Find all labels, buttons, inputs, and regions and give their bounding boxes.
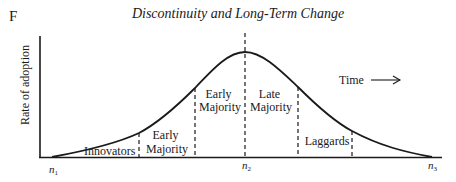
x-tick-n2: n2	[242, 159, 252, 173]
segment-label-innovators: Innovators	[84, 144, 136, 158]
x-tick-n1: n1	[49, 163, 59, 177]
adoption-curve-diagram: Rate of adoption Innovators Early Majori…	[0, 0, 456, 182]
y-axis-label: Rate of adoption	[18, 45, 32, 125]
segment-label-late-majority: Late Majority	[250, 87, 292, 114]
segment-label-early-majority-2: Early Majority	[199, 87, 241, 114]
segment-label-laggards: Laggards	[305, 134, 350, 148]
segment-label-early-majority-1: Early Majority	[146, 128, 188, 156]
time-label: Time	[339, 73, 364, 87]
adoption-curve	[52, 52, 432, 157]
x-tick-n3: n3	[428, 159, 438, 173]
